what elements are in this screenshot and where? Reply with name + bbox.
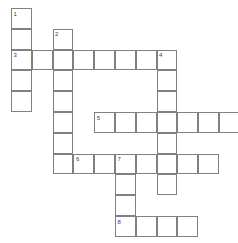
crossword-cell-r2-c3[interactable] <box>73 50 94 71</box>
crossword-cell-r2-c4[interactable] <box>94 50 115 71</box>
crossword-cell-r5-c4[interactable] <box>94 112 115 133</box>
crossword-cell-r8-c7[interactable] <box>157 174 178 195</box>
crossword-cell-r5-c2[interactable] <box>53 112 74 133</box>
crossword-cell-r5-c5[interactable] <box>115 112 136 133</box>
crossword-cell-r1-c2[interactable] <box>53 29 74 50</box>
crossword-puzzle: 12345678 <box>0 0 238 243</box>
crossword-cell-r4-c0[interactable] <box>11 91 32 112</box>
crossword-cell-r8-c5[interactable] <box>115 174 136 195</box>
crossword-grid[interactable]: 12345678 <box>0 0 238 243</box>
crossword-cell-r2-c7[interactable] <box>157 50 178 71</box>
crossword-cell-r3-c0[interactable] <box>11 70 32 91</box>
crossword-cell-r10-c8[interactable] <box>177 216 198 237</box>
crossword-cell-r5-c7[interactable] <box>157 112 178 133</box>
crossword-cell-r7-c9[interactable] <box>198 154 219 175</box>
crossword-cell-r2-c2[interactable] <box>53 50 74 71</box>
crossword-cell-r2-c0[interactable] <box>11 50 32 71</box>
crossword-cell-r0-c0[interactable] <box>11 8 32 29</box>
crossword-cell-r9-c5[interactable] <box>115 195 136 216</box>
crossword-cell-r6-c7[interactable] <box>157 133 178 154</box>
crossword-cell-r7-c3[interactable] <box>73 154 94 175</box>
crossword-cell-r5-c10[interactable] <box>219 112 238 133</box>
crossword-cell-r3-c2[interactable] <box>53 70 74 91</box>
crossword-cell-r4-c7[interactable] <box>157 91 178 112</box>
crossword-cell-r5-c6[interactable] <box>136 112 157 133</box>
crossword-cell-r7-c6[interactable] <box>136 154 157 175</box>
crossword-cell-r10-c5[interactable] <box>115 216 136 237</box>
crossword-cell-r7-c8[interactable] <box>177 154 198 175</box>
crossword-cell-r2-c1[interactable] <box>32 50 53 71</box>
crossword-cell-r7-c4[interactable] <box>94 154 115 175</box>
crossword-cell-r7-c2[interactable] <box>53 154 74 175</box>
crossword-cell-r3-c7[interactable] <box>157 70 178 91</box>
crossword-cell-r2-c5[interactable] <box>115 50 136 71</box>
crossword-cell-r5-c9[interactable] <box>198 112 219 133</box>
crossword-cell-r7-c5[interactable] <box>115 154 136 175</box>
crossword-cell-r6-c2[interactable] <box>53 133 74 154</box>
crossword-cell-r5-c8[interactable] <box>177 112 198 133</box>
crossword-cell-r7-c7[interactable] <box>157 154 178 175</box>
crossword-cell-r10-c6[interactable] <box>136 216 157 237</box>
crossword-cell-r2-c6[interactable] <box>136 50 157 71</box>
crossword-cell-r10-c7[interactable] <box>157 216 178 237</box>
crossword-cell-r1-c0[interactable] <box>11 29 32 50</box>
crossword-cell-r4-c2[interactable] <box>53 91 74 112</box>
